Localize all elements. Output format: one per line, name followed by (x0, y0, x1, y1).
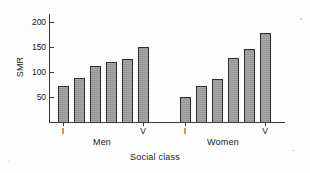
bar-women-V (260, 33, 271, 122)
y-tick-150 (49, 47, 54, 48)
y-tick-label-100: 100 (6, 68, 46, 77)
group-label-men: Men (75, 137, 129, 147)
bar-men-IV (122, 59, 133, 123)
y-tick-100 (49, 72, 54, 73)
x-label-men-first: I (57, 126, 69, 136)
bar-men-IIIm (106, 62, 117, 122)
bar-men-V (138, 47, 149, 123)
bar-women-IIIn (212, 79, 223, 123)
x-label-women-first: I (179, 126, 191, 136)
bar-men-I (58, 86, 69, 122)
bar-women-II (196, 86, 207, 123)
y-tick-200 (49, 22, 54, 23)
y-tick-label-50: 50 (6, 93, 46, 102)
bar-women-I (180, 97, 191, 123)
smr-bar-chart-figure: SMR 200 150 100 50 I V Men I V Wo (0, 0, 310, 173)
bar-men-IIIn (90, 66, 101, 122)
group-label-women: Women (194, 137, 252, 147)
scan-speckle (292, 150, 295, 151)
scan-speckle (8, 160, 9, 161)
x-label-men-last: V (137, 126, 149, 136)
y-tick-label-200: 200 (6, 18, 46, 27)
scan-speckle (300, 18, 302, 20)
x-axis-line (49, 122, 285, 123)
y-tick-50 (49, 97, 54, 98)
x-label-women-last: V (259, 126, 271, 136)
bar-women-IIIm (228, 58, 239, 122)
x-axis-title: Social class (0, 152, 310, 162)
plot-area: SMR 200 150 100 50 I V Men I V Wo (0, 0, 310, 173)
y-tick-label-150: 150 (6, 43, 46, 52)
bar-men-II (74, 78, 85, 122)
bar-women-IV (244, 49, 255, 122)
y-axis-line (49, 14, 50, 123)
